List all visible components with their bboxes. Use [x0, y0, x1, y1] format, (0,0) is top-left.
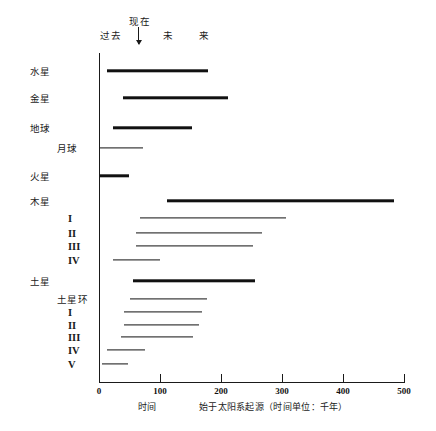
- x-tick: [343, 374, 344, 383]
- row-label: I: [68, 213, 72, 224]
- annotation-future-second-char: 来: [199, 28, 210, 42]
- annotation-future-first-char: 未: [163, 28, 174, 42]
- row-label: 土星环: [57, 292, 88, 306]
- bar-火星: [100, 174, 129, 177]
- row-label: 木星: [30, 194, 51, 208]
- x-tick: [99, 374, 100, 383]
- row-label: 金星: [30, 91, 51, 105]
- row-label: 土星: [30, 274, 51, 288]
- x-tick-label: 300: [275, 386, 289, 396]
- chart-figure: 过去 现在 未 来 水星金星地球月球火星木星IIIIIIIV土星土星环IIIII…: [0, 0, 436, 431]
- x-tick-label: 400: [336, 386, 350, 396]
- x-tick-label: 100: [153, 386, 167, 396]
- bar-II: [124, 324, 199, 325]
- x-tick: [404, 374, 405, 383]
- row-label: III: [68, 332, 80, 343]
- row-label: V: [68, 359, 76, 370]
- row-label: 火星: [30, 169, 51, 183]
- bar-III: [121, 336, 193, 337]
- bar-金星: [123, 96, 229, 99]
- x-tick: [221, 374, 222, 383]
- bar-水星: [107, 69, 208, 72]
- axis-caption-time: 时间: [138, 400, 157, 413]
- bar-III: [136, 245, 253, 246]
- bar-土星环: [130, 298, 207, 299]
- bar-地球: [113, 126, 192, 129]
- annotation-present: 现在: [129, 14, 150, 28]
- row-label: II: [68, 228, 76, 239]
- bar-I: [140, 217, 286, 218]
- x-tick-label: 500: [397, 386, 411, 396]
- row-label: 水星: [30, 64, 51, 78]
- row-label: IV: [68, 345, 80, 356]
- x-tick: [160, 374, 161, 383]
- row-label: 月球: [57, 141, 78, 155]
- bar-II: [136, 232, 262, 233]
- row-label: I: [68, 307, 72, 318]
- x-tick: [282, 374, 283, 383]
- x-tick-label: 0: [97, 386, 102, 396]
- down-arrow-icon: [138, 27, 139, 44]
- bar-I: [124, 311, 202, 312]
- bar-V: [102, 363, 128, 364]
- y-axis-line: [99, 53, 100, 383]
- bar-IV: [113, 259, 160, 260]
- x-tick-label: 200: [214, 386, 228, 396]
- bar-IV: [107, 349, 145, 350]
- x-axis-line: [99, 382, 405, 383]
- row-label: III: [68, 241, 80, 252]
- row-label: 地球: [30, 121, 51, 135]
- bar-土星: [133, 279, 255, 282]
- bar-木星: [167, 199, 394, 202]
- row-label: II: [68, 320, 76, 331]
- row-label: IV: [68, 255, 80, 266]
- bar-月球: [100, 147, 143, 148]
- annotation-past: 过去: [100, 28, 121, 42]
- axis-caption-origin: 始于太阳系起源（时间单位：千年）: [199, 400, 348, 413]
